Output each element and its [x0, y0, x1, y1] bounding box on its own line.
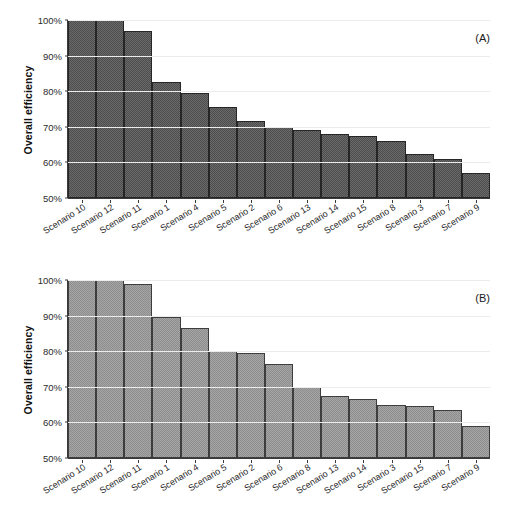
bar: [68, 280, 96, 458]
gridline: [68, 127, 490, 128]
gridline: [68, 91, 490, 92]
plot-area-a: 50%60%70%80%90%100%: [68, 20, 490, 198]
plot-area-b: 50%60%70%80%90%100%: [68, 280, 490, 458]
y-tick-label: 70%: [43, 121, 62, 132]
gridline: [68, 280, 490, 281]
bar: [349, 136, 377, 198]
bar: [152, 82, 180, 198]
y-tick-mark: [65, 422, 68, 423]
bar-series-a: [68, 20, 490, 198]
y-tick-mark: [65, 20, 68, 21]
bar: [406, 154, 434, 199]
y-tick-mark: [65, 55, 68, 56]
bar: [321, 396, 349, 458]
bar: [434, 410, 462, 458]
gridline: [68, 351, 490, 352]
y-tick-mark: [65, 458, 68, 459]
bar-series-b: [68, 280, 490, 458]
y-tick-label: 60%: [43, 157, 62, 168]
x-axis-labels-b: Scenario 10Scenario 12Scenario 11Scenari…: [68, 460, 490, 518]
gridline: [68, 387, 490, 388]
x-axis-line-b: [68, 458, 490, 459]
bar: [434, 159, 462, 198]
y-axis-title-b: Overall efficiency: [22, 295, 34, 445]
y-tick-mark: [65, 386, 68, 387]
panel-b: Overall efficiency 50%60%70%80%90%100% S…: [0, 260, 506, 521]
x-axis-line-a: [68, 198, 490, 199]
bar: [349, 399, 377, 458]
gridline: [68, 20, 490, 21]
bar: [181, 328, 209, 458]
gridline: [68, 316, 490, 317]
x-axis-labels-a: Scenario 10Scenario 12Scenario 11Scenari…: [68, 200, 490, 258]
bar: [462, 426, 490, 458]
y-tick-mark: [65, 198, 68, 199]
bar: [209, 107, 237, 198]
y-tick-mark: [65, 315, 68, 316]
y-tick-label: 90%: [43, 310, 62, 321]
bar: [265, 364, 293, 458]
y-tick-label: 80%: [43, 86, 62, 97]
y-tick-mark: [65, 162, 68, 163]
bar: [237, 353, 265, 458]
figure: Overall efficiency 50%60%70%80%90%100% S…: [0, 0, 506, 521]
y-tick-mark: [65, 91, 68, 92]
bar: [293, 130, 321, 198]
bar: [96, 280, 124, 458]
y-tick-label: 100%: [38, 15, 62, 26]
gridline: [68, 56, 490, 57]
bar: [321, 134, 349, 198]
bar: [237, 121, 265, 198]
y-tick-label: 80%: [43, 346, 62, 357]
y-tick-label: 100%: [38, 275, 62, 286]
y-tick-mark: [65, 126, 68, 127]
bar: [124, 284, 152, 458]
y-tick-label: 70%: [43, 381, 62, 392]
bar: [181, 93, 209, 198]
y-tick-mark: [65, 280, 68, 281]
bar: [377, 405, 405, 458]
y-tick-label: 60%: [43, 417, 62, 428]
y-tick-label: 90%: [43, 50, 62, 61]
panel-tag-b: (B): [475, 292, 490, 304]
gridline: [68, 422, 490, 423]
bar: [209, 351, 237, 458]
y-tick-label: 50%: [43, 453, 62, 464]
panel-a: Overall efficiency 50%60%70%80%90%100% S…: [0, 0, 506, 260]
gridline: [68, 162, 490, 163]
bar: [406, 406, 434, 458]
bar: [68, 20, 96, 198]
y-tick-label: 50%: [43, 193, 62, 204]
bar: [377, 141, 405, 198]
bar: [462, 173, 490, 198]
y-tick-mark: [65, 351, 68, 352]
panel-tag-a: (A): [475, 32, 490, 44]
y-axis-title-a: Overall efficiency: [22, 35, 34, 185]
bar: [96, 20, 124, 198]
